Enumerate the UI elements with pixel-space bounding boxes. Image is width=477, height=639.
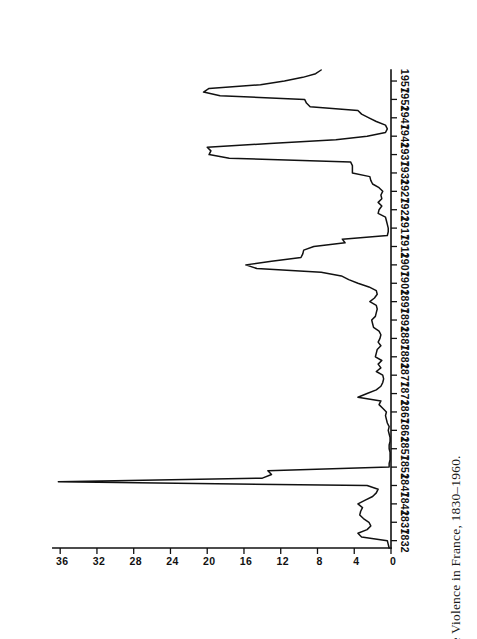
plot-inner: 04812162024283236 1832183718421847185218…: [39, 40, 439, 600]
y-tick-label: 28: [129, 554, 141, 566]
figure-caption-text: Figure 8. Arrests in Collective Violence…: [448, 455, 464, 639]
figure-container: 04812162024283236 1832183718421847185218…: [0, 0, 477, 639]
y-tick-label: 20: [203, 554, 215, 566]
y-tick-label: 4: [353, 554, 359, 566]
line-chart-svg: 04812162024283236 1832183718421847185218…: [51, 70, 391, 548]
x-tick-label: 1957: [399, 68, 411, 93]
y-tick-label: 8: [316, 554, 322, 566]
arrests-series-line: [58, 70, 390, 548]
value-axis: 04812162024283236: [52, 548, 395, 567]
y-tick-label: 12: [276, 554, 288, 566]
y-tick-label: 32: [92, 554, 104, 566]
y-tick-label: 24: [166, 554, 178, 566]
time-axis: 1832183718421847185218571862186718721877…: [391, 68, 411, 552]
y-tick-label: 36: [56, 554, 68, 566]
figure-caption: Figure 8. Arrests in Collective Violence…: [441, 0, 471, 639]
chart-plot-area: 04812162024283236 1832183718421847185218…: [51, 70, 391, 548]
rotated-plot-wrapper: 04812162024283236 1832183718421847185218…: [39, 40, 439, 600]
y-tick-label: 0: [389, 554, 395, 566]
y-tick-label: 16: [239, 554, 251, 566]
